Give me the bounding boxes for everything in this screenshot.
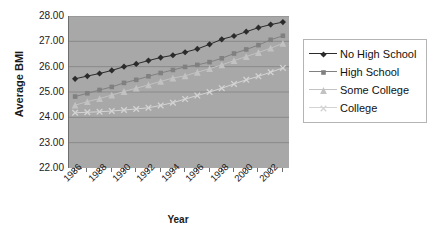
y-axis-tick-label: 23.00: [18, 138, 64, 148]
y-axis-tick-label: 22.00: [18, 163, 64, 173]
data-point-square: [122, 81, 127, 86]
data-point-diamond: [84, 73, 90, 79]
data-point-square: [73, 94, 78, 99]
legend-key-marker: [319, 86, 328, 95]
x-axis-tickmark: [209, 168, 210, 172]
data-point-triangle: [72, 102, 79, 109]
legend-item[interactable]: College: [308, 99, 422, 117]
y-axis-tick-label: 27.00: [18, 36, 64, 46]
data-point-x: [321, 106, 327, 112]
legend-item-label: High School: [338, 66, 399, 78]
data-point-diamond: [96, 70, 102, 76]
data-point-square: [146, 74, 151, 79]
data-point-triangle: [243, 53, 250, 60]
data-point-triangle: [194, 69, 201, 76]
data-point-triangle: [96, 95, 103, 102]
x-axis-tickmark: [257, 168, 258, 172]
data-point-diamond: [109, 67, 115, 73]
x-axis-title: Year: [68, 214, 288, 225]
data-point-diamond: [133, 61, 139, 67]
data-point-x: [231, 81, 237, 87]
data-point-x: [243, 77, 249, 83]
data-point-x: [268, 69, 274, 75]
series-line: [75, 22, 283, 79]
legend-marker-diamond-icon: [308, 46, 338, 62]
legend-key-marker: [319, 104, 328, 113]
data-point-x: [219, 85, 225, 91]
data-point-diamond: [158, 54, 164, 60]
data-point-diamond: [231, 33, 237, 39]
x-axis-tickmark: [86, 168, 87, 172]
x-axis-tickmark: [184, 168, 185, 172]
series-group: [72, 19, 286, 82]
legend-item[interactable]: Some College: [308, 81, 422, 99]
data-point-x: [195, 93, 201, 99]
legend-item[interactable]: High School: [308, 63, 422, 81]
series-group: [73, 33, 285, 98]
data-point-square: [134, 78, 139, 83]
data-point-square: [232, 51, 237, 56]
x-axis-tickmark: [233, 168, 234, 172]
x-axis-tickmark: [282, 168, 283, 172]
data-point-triangle: [157, 78, 164, 85]
data-point-triangle: [121, 88, 128, 95]
legend-item[interactable]: No High School: [308, 45, 422, 63]
data-point-diamond: [170, 52, 176, 58]
y-axis-tick-label: 24.00: [18, 112, 64, 122]
plot-series-svg: [69, 16, 289, 168]
data-point-square: [195, 63, 200, 68]
y-axis-tick-label: 26.00: [18, 62, 64, 72]
data-point-triangle: [145, 82, 152, 89]
data-point-square: [256, 43, 261, 48]
data-point-square: [85, 91, 90, 96]
data-point-x: [280, 65, 286, 71]
legend-item-label: No High School: [338, 48, 416, 60]
series-group: [72, 40, 287, 109]
chart-legend: No High SchoolHigh SchoolSome CollegeCol…: [303, 39, 427, 123]
data-point-diamond: [194, 46, 200, 52]
legend-key-marker: [319, 68, 328, 77]
data-point-square: [244, 47, 249, 52]
y-axis-tick-label: 25.00: [18, 87, 64, 97]
data-point-square: [97, 88, 102, 93]
data-point-square: [321, 70, 326, 75]
data-point-diamond: [255, 25, 261, 31]
data-point-square: [207, 60, 212, 65]
data-point-square: [219, 56, 224, 61]
y-axis-tick-label: 28.00: [18, 11, 64, 21]
legend-item-label: College: [338, 102, 377, 114]
data-point-square: [158, 71, 163, 76]
data-point-diamond: [280, 19, 286, 25]
data-point-triangle: [108, 92, 115, 99]
data-point-triangle: [320, 87, 327, 94]
series-line: [75, 43, 283, 105]
legend-marker-x-icon: [308, 100, 338, 116]
data-point-diamond: [182, 49, 188, 55]
legend-item-label: Some College: [338, 84, 409, 96]
data-point-diamond: [320, 51, 326, 57]
data-point-x: [256, 73, 262, 79]
data-point-diamond: [145, 57, 151, 63]
data-point-triangle: [218, 61, 225, 68]
data-point-triangle: [133, 85, 140, 92]
data-point-x: [182, 96, 188, 102]
data-point-triangle: [267, 45, 274, 52]
data-point-square: [268, 38, 273, 43]
plot-area: [68, 16, 289, 168]
series-line: [75, 68, 283, 113]
y-axis-tick-labels: 28.0027.0026.0025.0024.0023.0022.00: [14, 0, 64, 238]
data-point-triangle: [84, 98, 91, 105]
data-point-square: [281, 33, 286, 38]
data-point-diamond: [206, 41, 212, 47]
data-point-square: [171, 68, 176, 73]
legend-marker-square-icon: [308, 64, 338, 80]
data-point-square: [109, 85, 114, 90]
data-point-triangle: [255, 49, 262, 56]
data-point-diamond: [243, 29, 249, 35]
legend-marker-triangle-icon: [308, 82, 338, 98]
data-point-square: [183, 65, 188, 70]
x-axis-tickmark: [160, 168, 161, 172]
data-point-diamond: [268, 22, 274, 28]
x-axis-tickmark: [135, 168, 136, 172]
series-line: [75, 36, 283, 97]
